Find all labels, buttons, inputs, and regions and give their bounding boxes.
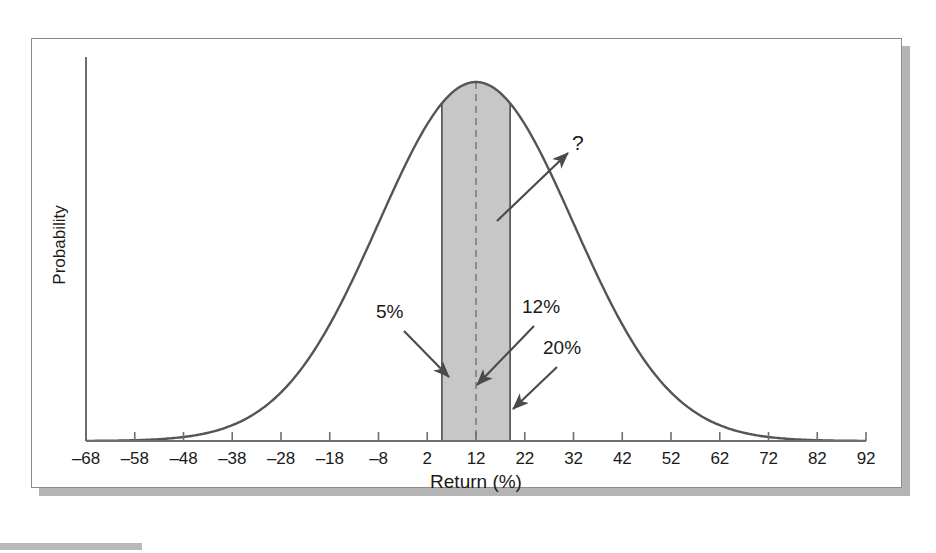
x-axis-tick-label: –18 — [316, 449, 344, 469]
x-axis-tick-label: –38 — [218, 449, 246, 469]
x-axis-tick-label: –28 — [267, 449, 295, 469]
annotation-lower-bound: 5% — [376, 301, 403, 323]
x-axis-tick-label: 2 — [423, 449, 432, 469]
x-axis-tick-label: 22 — [515, 449, 534, 469]
x-axis-tick-label: –48 — [170, 449, 198, 469]
x-axis-tick-label: 52 — [662, 449, 681, 469]
y-axis-title: Probability — [50, 205, 70, 284]
annotation-std-dev: 20% — [543, 337, 581, 359]
x-axis-tick-label: 12 — [467, 449, 486, 469]
x-axis-tick-label: –68 — [72, 449, 100, 469]
x-axis-tick-label: 42 — [613, 449, 632, 469]
figure-frame — [31, 38, 902, 488]
x-axis-title: Return (%) — [430, 471, 522, 493]
page-artifact-bar — [0, 543, 142, 550]
x-axis-tick-label: 82 — [808, 449, 827, 469]
x-axis-tick-label: 32 — [564, 449, 583, 469]
x-axis-tick-label: –58 — [121, 449, 149, 469]
x-axis-tick-label: –8 — [369, 449, 388, 469]
x-axis-tick-label: 72 — [759, 449, 778, 469]
x-axis-tick-label: 62 — [710, 449, 729, 469]
x-axis-tick-label: 92 — [857, 449, 876, 469]
annotation-question-mark: ? — [572, 131, 584, 155]
annotation-mean: 12% — [522, 296, 560, 318]
